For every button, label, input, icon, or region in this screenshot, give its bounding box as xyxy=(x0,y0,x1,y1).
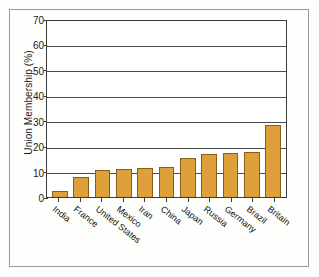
x-label-slot: France xyxy=(70,202,92,262)
bar-slot xyxy=(70,21,91,197)
bar-france xyxy=(73,177,89,197)
x-axis-labels: IndiaFranceUnited StatesMexicoIranChinaJ… xyxy=(46,202,287,262)
bar-slot xyxy=(113,21,134,197)
x-label-slot: India xyxy=(48,202,70,262)
bar-slot xyxy=(134,21,155,197)
x-label-slot: Brazil xyxy=(242,202,264,262)
bar-slot xyxy=(177,21,198,197)
bar-slot xyxy=(220,21,241,197)
y-tick-label: 60 xyxy=(22,40,44,51)
bar-germany xyxy=(223,153,239,197)
x-label-slot: Germany xyxy=(220,202,242,262)
y-axis-ticks: 010203040506070 xyxy=(18,20,44,198)
bar-japan xyxy=(180,158,196,197)
plot-area xyxy=(46,20,287,198)
bar-slot xyxy=(263,21,284,197)
bar-russia xyxy=(201,154,217,197)
x-tick-label-iran: Iran xyxy=(137,204,155,221)
bar-iran xyxy=(137,168,153,197)
x-label-slot: Russia xyxy=(199,202,221,262)
chart-figure: Union Membership (%) 010203040506070 Ind… xyxy=(0,0,319,277)
bar-china xyxy=(159,167,175,197)
x-label-slot: Japan xyxy=(177,202,199,262)
x-label-slot: Mexico xyxy=(113,202,135,262)
y-tick-label: 40 xyxy=(22,91,44,102)
x-label-slot: Britain xyxy=(263,202,285,262)
y-tick-label: 20 xyxy=(22,142,44,153)
bar-brazil xyxy=(244,152,260,197)
bar-slot xyxy=(156,21,177,197)
bar-slot xyxy=(49,21,70,197)
bar-slot xyxy=(92,21,113,197)
y-tick-label: 30 xyxy=(22,116,44,127)
x-label-slot: China xyxy=(156,202,178,262)
y-tick-label: 70 xyxy=(22,15,44,26)
bar-united-states xyxy=(95,170,111,197)
bar-slot xyxy=(241,21,262,197)
bar-series xyxy=(47,21,286,197)
bar-slot xyxy=(199,21,220,197)
y-tick-label: 0 xyxy=(22,193,44,204)
y-tick-label: 10 xyxy=(22,167,44,178)
bar-india xyxy=(52,191,68,197)
bar-mexico xyxy=(116,169,132,197)
bar-britain xyxy=(265,125,281,197)
x-label-slot: United States xyxy=(91,202,113,262)
y-tick-label: 50 xyxy=(22,65,44,76)
x-label-slot: Iran xyxy=(134,202,156,262)
